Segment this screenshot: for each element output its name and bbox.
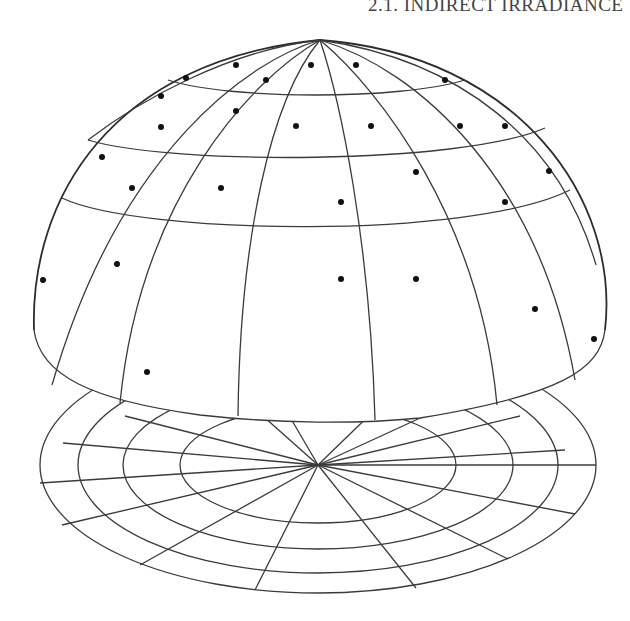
hemisphere-figure [0, 0, 630, 621]
disc-spokes [40, 400, 596, 590]
